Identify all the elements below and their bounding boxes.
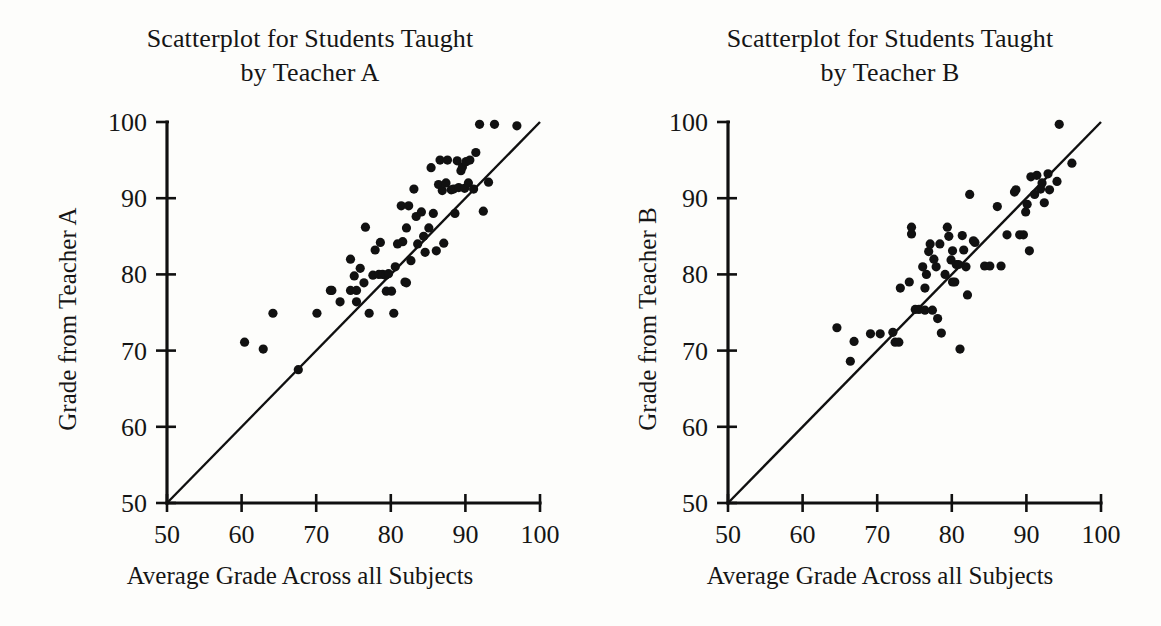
data-point [1067,159,1076,168]
data-point [928,306,937,315]
data-point [996,261,1005,270]
data-point [424,223,433,232]
data-point [294,365,303,374]
data-point-group-teacher-b [832,120,1076,366]
data-point [439,239,448,248]
data-point [361,223,370,232]
x-axis-label-teacher-a: Average Grade Across all Subjects [40,562,560,590]
data-point [993,202,1002,211]
data-point [484,178,493,187]
data-point [450,209,459,218]
data-point [955,344,964,353]
plot-area-teacher-a: 50607080901005060708090100 [0,0,580,626]
y-tick-label-70: 70 [682,337,708,366]
data-point [406,256,415,265]
data-point [259,344,268,353]
data-point [905,277,914,286]
data-point [959,245,968,254]
data-point [356,264,365,273]
data-point [376,238,385,247]
data-point [240,338,249,347]
data-point [944,232,953,241]
y-tick-label-80: 80 [682,260,708,289]
y-tick-label-90: 90 [682,184,708,213]
data-point [465,156,474,165]
y-tick-label-70: 70 [121,337,147,366]
data-point [958,231,967,240]
data-point [1023,200,1032,209]
data-point [1002,230,1011,239]
data-point [846,357,855,366]
y-tick-label-80: 80 [121,260,147,289]
data-point [352,286,361,295]
x-tick-label-90: 90 [1013,520,1039,549]
data-point [969,236,978,245]
data-point [359,278,368,287]
data-point [475,120,484,129]
x-tick-label-60: 60 [229,520,255,549]
scatterplot-panel-teacher-b: Scatterplot for Students Taught by Teach… [580,0,1160,626]
data-point [350,271,359,280]
data-point [965,190,974,199]
data-point [419,232,428,241]
data-point [335,297,344,306]
data-point [413,239,422,248]
data-point [443,156,452,165]
x-tick-label-80: 80 [939,520,965,549]
data-point [268,309,277,318]
x-tick-label-70: 70 [864,520,890,549]
y-tick-label-100: 100 [669,108,708,137]
y-tick-label-90: 90 [121,184,147,213]
data-point [943,223,952,232]
data-point [432,246,441,255]
y-tick-label-100: 100 [108,108,147,137]
data-point [1040,198,1049,207]
data-point [961,262,970,271]
data-point [404,201,413,210]
plot-area-teacher-b: 50607080901005060708090100 [580,0,1160,626]
data-point [471,148,480,157]
data-point [950,277,959,286]
data-point [1055,120,1064,129]
data-point [896,284,905,293]
y-tick-label-50: 50 [121,489,147,518]
data-point [922,270,931,279]
data-point [920,284,929,293]
x-tick-label-100: 100 [521,520,560,549]
data-point [490,120,499,129]
data-point [426,163,435,172]
identity-reference-line-teacher-a [167,122,540,503]
data-point [1032,171,1041,180]
data-point [948,246,957,255]
x-tick-label-50: 50 [154,520,180,549]
data-point [963,290,972,299]
data-point [1043,169,1052,178]
data-point [326,286,335,295]
data-point [894,338,903,347]
data-point [849,337,858,346]
data-point [866,329,875,338]
data-point [1025,246,1034,255]
data-point [907,229,916,238]
data-point [924,247,933,256]
data-point [393,239,402,248]
y-tick-label-60: 60 [682,413,708,442]
data-point [421,248,430,257]
data-point [371,245,380,254]
data-point [937,328,946,337]
data-point [352,297,361,306]
data-point [402,223,411,232]
data-point [1011,185,1020,194]
x-axis-label-teacher-b: Average Grade Across all Subjects [620,562,1140,590]
y-axis-label-teacher-b: Grade from Teacher B [634,119,662,519]
data-point [888,328,897,337]
y-tick-label-50: 50 [682,489,708,518]
data-point [479,207,488,216]
data-point [933,314,942,323]
data-point [429,209,438,218]
data-point [409,184,418,193]
data-point [985,261,994,270]
data-point [417,207,426,216]
scatter-svg-teacher-b: 50607080901005060708090100 [580,0,1160,626]
x-tick-label-70: 70 [303,520,329,549]
